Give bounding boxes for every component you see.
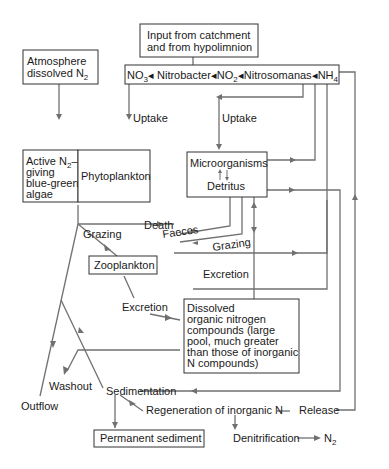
zooplankton-node: Zooplankton: [89, 256, 157, 274]
detritus-label: Detritus: [207, 180, 245, 192]
input-label-1: Input from catchment: [147, 29, 250, 41]
excretion-left-label: Excretion: [122, 301, 168, 313]
atmosphere-node: Atmosphere dissolved N2: [23, 50, 98, 84]
bluegreen-algae-node: Active N2– giving blue-green algae: [23, 150, 79, 202]
atmosphere-label: Atmosphere: [27, 55, 86, 67]
bluegreen-label-4: algae: [26, 188, 53, 200]
nitrification-chain-node: NO3◂ Nitrobacter◂NO2◂Nitrosomanas◂NH4: [125, 65, 339, 84]
dissolved-organic-nitrogen-node: Dissolved organic nitrogen compounds (la…: [184, 299, 299, 373]
zooplankton-label: Zooplankton: [94, 259, 155, 271]
permanent-sediment-label: Permanent sediment: [100, 432, 202, 444]
uptake-left-label: Uptake: [133, 112, 168, 124]
nitrogen-cycle-diagram: Input from catchment and from hypolimnio…: [0, 0, 389, 469]
microorganisms-detritus-node: Microorganisms Detritus: [187, 152, 268, 197]
don-label-6: N compounds): [187, 357, 259, 369]
regeneration-label: Regeneration of inorganic N: [146, 404, 283, 416]
grazing-right-label: Grazing: [212, 236, 252, 253]
input-label-2: and from hypolimnion: [147, 41, 252, 53]
denitrification-label: Denitrification: [233, 432, 300, 444]
phytoplankton-label: Phytoplankton: [81, 170, 151, 182]
washout-label: Washout: [49, 380, 92, 392]
release-label: Release: [299, 404, 339, 416]
permanent-sediment-node: Permanent sediment: [94, 430, 204, 447]
uptake-right-label: Uptake: [222, 112, 257, 124]
phytoplankton-node: Phytoplankton: [78, 150, 151, 202]
grazing-left-label: Grazing: [83, 228, 122, 240]
outflow-label: Outflow: [21, 400, 58, 412]
microorganisms-label: Microorganisms: [190, 157, 268, 169]
sedimentation-label: Sedimentation: [106, 385, 176, 397]
n2-product-label: N2: [324, 432, 337, 447]
excretion-right-label: Excretion: [203, 268, 249, 280]
input-node: Input from catchment and from hypolimnio…: [140, 24, 258, 57]
